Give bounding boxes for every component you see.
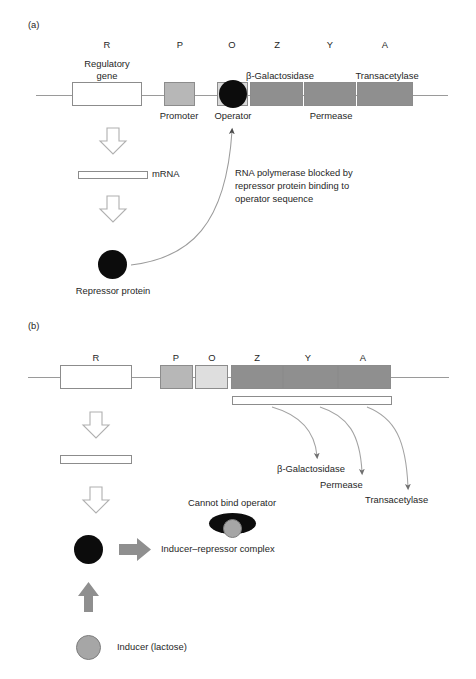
gene-letter-p-b: P bbox=[173, 352, 179, 365]
repressor-protein-icon-a bbox=[98, 250, 127, 279]
annotation-line-3: operator sequence bbox=[235, 193, 313, 206]
gene-letter-y-a: Y bbox=[327, 39, 333, 52]
inducer-lactose-icon bbox=[76, 635, 101, 660]
gene-box-z-b bbox=[231, 365, 283, 389]
gene-box-operator-b bbox=[195, 365, 228, 389]
product-label-permease: Permease bbox=[320, 479, 363, 492]
lac-operon-figure: (a) R P O Z Y A Regulatory gene β-Galact… bbox=[0, 0, 476, 679]
regulatory-gene-label-line2: gene bbox=[97, 70, 118, 83]
permease-label-a: Permease bbox=[310, 110, 353, 123]
repressor-protein-bound-icon bbox=[219, 80, 247, 108]
repressor-binding-curve bbox=[131, 131, 232, 265]
induction-arrow-up bbox=[78, 582, 99, 612]
gene-letter-o-b: O bbox=[208, 352, 215, 365]
gene-box-regulatory-a bbox=[72, 82, 142, 106]
transacetylase-label-a: Transacetylase bbox=[355, 70, 418, 83]
gene-letter-a-a: A bbox=[382, 39, 388, 52]
product-label-transacetylase: Transacetylase bbox=[365, 494, 428, 507]
panel-b-tag: (b) bbox=[28, 320, 39, 331]
inducer-repressor-complex-label: Inducer–repressor complex bbox=[161, 543, 275, 556]
product-curve-transacetylase bbox=[367, 407, 408, 487]
complex-formation-arrow bbox=[119, 538, 151, 561]
mrna-bar-repressor-b bbox=[60, 455, 132, 464]
inducer-lactose-label: Inducer (lactose) bbox=[117, 641, 187, 654]
gene-letter-r-a: R bbox=[104, 39, 111, 52]
annotation-line-2: repressor protein binding to bbox=[235, 180, 349, 193]
cannot-bind-operator-label: Cannot bind operator bbox=[188, 497, 276, 510]
promoter-label-a: Promoter bbox=[160, 110, 199, 123]
gene-box-z-a bbox=[250, 82, 303, 106]
regulatory-gene-label-line1: Regulatory bbox=[84, 58, 129, 71]
annotation-line-1: RNA polymerase blocked by bbox=[235, 167, 353, 180]
gene-letter-z-a: Z bbox=[274, 39, 280, 52]
transcription-arrow-b1 bbox=[83, 412, 109, 438]
gene-box-a-b bbox=[338, 365, 391, 389]
translation-arrow-b2 bbox=[83, 487, 109, 513]
gene-box-regulatory-b bbox=[60, 365, 132, 389]
gene-letter-y-b: Y bbox=[305, 352, 311, 365]
product-label-beta-galactosidase: β-Galactosidase bbox=[277, 463, 345, 476]
transcription-arrow-a1 bbox=[100, 128, 126, 154]
repressor-protein-icon-b bbox=[74, 535, 103, 564]
translation-arrow-a2 bbox=[100, 196, 126, 222]
repressor-protein-label-a: Repressor protein bbox=[76, 285, 151, 298]
panel-a-tag: (a) bbox=[28, 19, 39, 30]
gene-box-promoter-b bbox=[160, 365, 193, 389]
beta-galactosidase-label-a: β-Galactosidase bbox=[246, 70, 314, 83]
gene-letter-a-b: A bbox=[360, 352, 366, 365]
gene-letter-p-a: P bbox=[177, 39, 183, 52]
gene-box-promoter-a bbox=[164, 82, 195, 106]
gene-box-y-b bbox=[283, 365, 338, 389]
gene-letter-o-a: O bbox=[228, 39, 235, 52]
operator-label-a: Operator bbox=[215, 110, 252, 123]
product-curve-beta-galactosidase bbox=[272, 407, 317, 456]
mrna-label-a: mRNA bbox=[152, 168, 180, 181]
gene-box-y-a bbox=[304, 82, 356, 106]
gene-letter-r-b: R bbox=[93, 352, 100, 365]
gene-box-a-a bbox=[357, 82, 413, 106]
gene-letter-z-b: Z bbox=[254, 352, 260, 365]
mrna-bar-polycistronic-b bbox=[232, 396, 392, 405]
inducer-bound-icon bbox=[223, 519, 242, 538]
mrna-bar-a bbox=[78, 171, 148, 179]
